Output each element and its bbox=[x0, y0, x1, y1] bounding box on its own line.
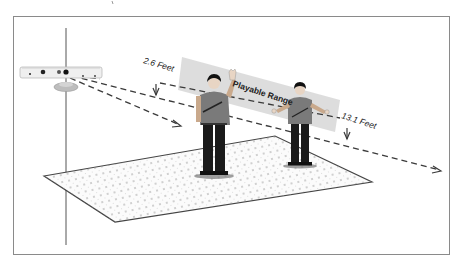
sensor-led bbox=[29, 73, 31, 75]
diagram-frame bbox=[14, 17, 450, 255]
sensor-mic bbox=[82, 75, 84, 77]
sensor-projector bbox=[63, 69, 68, 74]
sensor-mic-2 bbox=[94, 75, 96, 77]
top-tick-mark bbox=[112, 1, 113, 4]
sensor-camera-rgb bbox=[57, 70, 61, 74]
sensor-camera-ir bbox=[41, 70, 46, 75]
kinect-range-diagram: 2.6 Feet Playable Range 13.1 Feet bbox=[0, 0, 464, 269]
sensor-bar bbox=[20, 67, 102, 78]
